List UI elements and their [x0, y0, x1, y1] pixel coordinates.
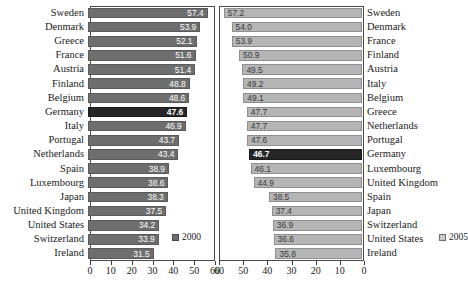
bar-row: Italy46.9 [0, 119, 215, 133]
x-tick-label: 20 [311, 266, 321, 276]
bar-row: Japan38.3 [0, 190, 215, 204]
bar-track: 48.6 [88, 91, 213, 105]
bar-value-label: 36.9 [277, 221, 293, 229]
bar-row: 46.1Luxembourg [217, 162, 364, 176]
bar-value-label: 36.6 [278, 235, 294, 243]
bar-italy: 46.9 [88, 121, 186, 132]
bar-track: 49.2 [217, 77, 362, 91]
bar-row: Spain38.9 [0, 162, 215, 176]
bar-track: 57.2 [217, 6, 362, 20]
bar-track: 49.5 [217, 63, 362, 77]
bar-value-label: 52.1 [176, 37, 192, 45]
bar-row: United States34.2 [0, 218, 215, 232]
bar-denmark: 54.0 [232, 22, 363, 33]
x-tick-label: 10 [106, 266, 116, 276]
category-label-sweden: Sweden [0, 8, 88, 19]
bar-japan: 37.4 [272, 206, 362, 217]
legend-label-2000: 2000 [182, 232, 201, 242]
bar-row: 37.4Japan [217, 204, 364, 218]
category-label-portugal: Portugal [367, 135, 403, 146]
bar-france: 53.9 [232, 36, 362, 47]
bar-portugal: 43.7 [88, 135, 179, 146]
category-label-ireland: Ireland [367, 248, 397, 259]
category-label-japan: Japan [0, 192, 88, 203]
bar-track: 50.9 [217, 48, 362, 62]
legend-item-2005: 2005 [439, 232, 468, 242]
x-tick-label: 0 [88, 266, 93, 276]
legend-swatch-2000-icon [172, 234, 179, 241]
category-label-spain: Spain [367, 192, 391, 203]
bar-track: 47.7 [217, 119, 362, 133]
bar-netherlands: 47.7 [247, 121, 362, 132]
bar-track: 46.7 [217, 148, 362, 162]
bar-value-label: 38.3 [147, 193, 163, 201]
bar-greece: 47.7 [247, 107, 362, 118]
category-label-belgium: Belgium [0, 93, 88, 104]
bar-value-label: 31.5 [133, 249, 149, 257]
bar-value-label: 33.9 [138, 235, 154, 243]
x-tick-label: 10 [335, 266, 345, 276]
bar-row: 50.9Finland [217, 48, 364, 62]
bar-row: 46.7Germany [217, 148, 364, 162]
bar-row: Austria51.4 [0, 63, 215, 77]
bar-japan: 38.3 [88, 192, 168, 203]
bar-value-label: 50.9 [243, 51, 259, 59]
bar-value-label: 38.9 [149, 164, 165, 172]
category-label-ireland: Ireland [0, 248, 88, 259]
bar-track: 37.4 [217, 204, 362, 218]
bar-united-states: 36.6 [274, 234, 362, 245]
bar-row: United Kingdom37.5 [0, 204, 215, 218]
bar-row: 57.2Sweden [217, 6, 364, 20]
bar-value-label: 49.2 [247, 79, 263, 87]
bar-track: 51.4 [88, 63, 213, 77]
bar-track: 38.5 [217, 190, 362, 204]
bar-track: 46.9 [88, 119, 213, 133]
category-label-netherlands: Netherlands [367, 121, 418, 132]
legend-swatch-2005-icon [439, 234, 446, 241]
category-label-germany: Germany [367, 149, 406, 160]
bar-row: France51.6 [0, 48, 215, 62]
category-label-united-states: United States [0, 220, 88, 231]
bar-track: 51.6 [88, 48, 213, 62]
bar-row: Sweden57.4 [0, 6, 215, 20]
bar-track: 43.4 [88, 148, 213, 162]
bar-track: 53.9 [88, 20, 213, 34]
bar-track: 43.7 [88, 133, 213, 147]
bar-row: 36.9Switzerland [217, 218, 364, 232]
bar-value-label: 38.5 [273, 193, 289, 201]
category-label-finland: Finland [0, 79, 88, 90]
bar-track: 38.9 [88, 162, 213, 176]
bar-value-label: 37.4 [276, 207, 292, 215]
bar-denmark: 53.9 [88, 22, 200, 33]
bar-row: 47.7Netherlands [217, 119, 364, 133]
bar-value-label: 44.9 [258, 179, 274, 187]
bar-track: 38.6 [88, 176, 213, 190]
bar-track: 47.6 [217, 133, 362, 147]
bar-row: Germany47.6 [0, 105, 215, 119]
bar-row: 38.5Spain [217, 190, 364, 204]
bar-track: 48.8 [88, 77, 213, 91]
category-label-united-states: United States [367, 234, 423, 245]
bar-track: 47.7 [217, 105, 362, 119]
bar-value-label: 48.6 [169, 94, 185, 102]
category-label-finland: Finland [367, 50, 399, 61]
category-label-luxembourg: Luxembourg [367, 164, 421, 175]
bar-row: Ireland31.5 [0, 247, 215, 261]
bar-row: 49.2Italy [217, 77, 364, 91]
bar-track: 47.6 [88, 105, 213, 119]
category-label-denmark: Denmark [0, 22, 88, 33]
bar-spain: 38.5 [269, 192, 362, 203]
bar-row: Finland48.8 [0, 77, 215, 91]
bar-track: 52.1 [88, 34, 213, 48]
bar-row: 53.9France [217, 34, 364, 48]
bar-rows-right: 57.2Sweden54.0Denmark53.9France50.9Finla… [217, 6, 364, 261]
bar-value-label: 47.6 [251, 136, 267, 144]
bar-rows-left: Sweden57.4Denmark53.9Greece52.1France51.… [0, 6, 215, 261]
bar-row: 49.1Belgium [217, 91, 364, 105]
bar-value-label: 51.6 [175, 51, 191, 59]
bar-belgium: 49.1 [243, 93, 362, 104]
bar-germany: 47.6 [88, 107, 187, 118]
x-axis-ticklabels-left: 0102030405060 [90, 266, 215, 280]
bar-value-label: 48.8 [169, 79, 185, 87]
